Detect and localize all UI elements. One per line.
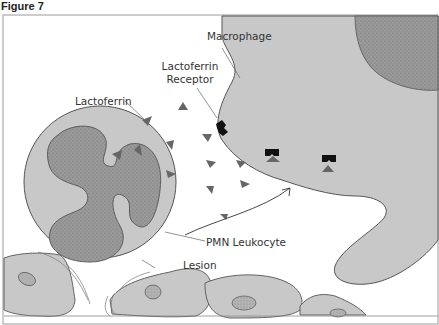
label-pmn-leukocyte: PMN Leukocyte (206, 236, 286, 248)
label-macrophage: Macrophage (207, 30, 272, 42)
label-lesion: Lesion (183, 259, 217, 271)
label-receptor-line1: Lactoferrin (155, 60, 225, 72)
diagram-canvas (0, 0, 439, 325)
label-receptor-line2: Receptor (155, 73, 225, 85)
label-lactoferrin: Lactoferrin (75, 95, 132, 107)
